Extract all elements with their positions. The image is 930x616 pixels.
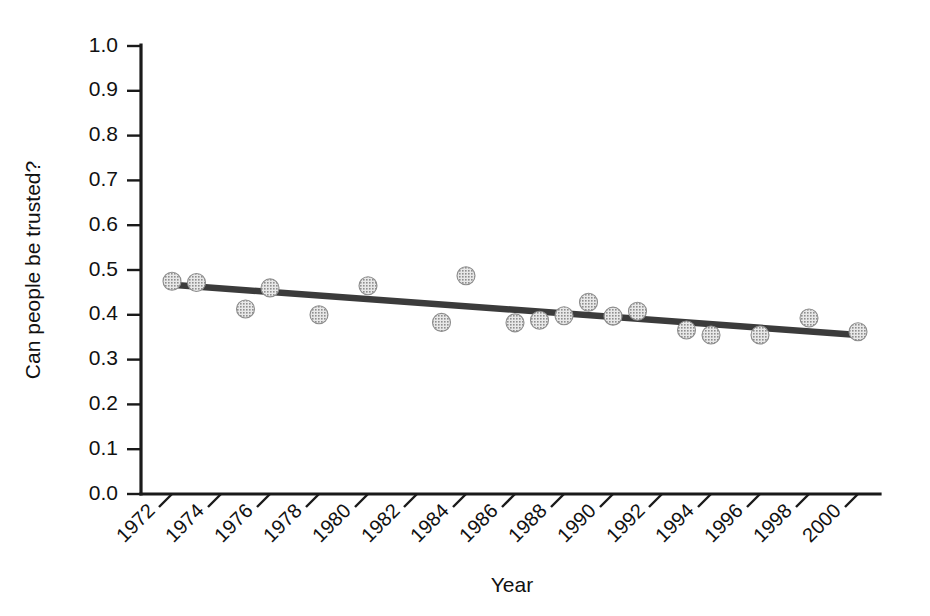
x-tick-label: 1982 (357, 499, 404, 546)
y-tick-label: 0.3 (89, 346, 118, 369)
x-tick-mark (208, 494, 221, 507)
y-tick-label: 1.0 (89, 33, 118, 56)
data-point (261, 279, 279, 297)
x-tick-label: 1978 (259, 499, 306, 546)
x-tick-mark (159, 494, 172, 507)
data-point (751, 326, 769, 344)
data-points-group (163, 267, 867, 344)
data-point (237, 300, 255, 318)
x-tick-mark (404, 494, 417, 507)
x-tick-label: 1990 (553, 499, 600, 546)
y-tick-label: 0.0 (89, 481, 118, 504)
x-tick-label: 1994 (651, 499, 698, 546)
x-tick-label: 1974 (161, 499, 208, 546)
x-tick-label: 1992 (602, 499, 649, 546)
x-tick-mark (845, 494, 858, 507)
x-tick-label: 1972 (112, 499, 159, 546)
data-point (457, 267, 475, 285)
x-tick-mark (796, 494, 809, 507)
y-tick-label: 0.8 (89, 122, 118, 145)
data-point (555, 307, 573, 325)
data-point (506, 314, 524, 332)
x-tick-mark (355, 494, 368, 507)
y-axis-ticks: 0.00.10.20.30.40.50.60.70.80.91.0 (89, 33, 141, 504)
x-tick-label: 1986 (455, 499, 502, 546)
y-tick-label: 0.6 (89, 212, 118, 235)
x-tick-mark (698, 494, 711, 507)
y-tick-label: 0.7 (89, 167, 118, 190)
data-point (310, 306, 328, 324)
x-tick-label: 1984 (406, 499, 453, 546)
scatter-plot-svg: 0.00.10.20.30.40.50.60.70.80.91.0 197219… (0, 0, 930, 616)
data-point (188, 274, 206, 292)
x-tick-label: 1998 (749, 499, 796, 546)
x-tick-mark (306, 494, 319, 507)
y-tick-label: 0.4 (89, 301, 119, 324)
data-point (433, 313, 451, 331)
x-tick-label: 1996 (700, 499, 747, 546)
x-tick-label: 2000 (798, 499, 845, 546)
x-tick-label: 1980 (308, 499, 355, 546)
data-point (163, 272, 181, 290)
data-point (359, 277, 377, 295)
data-point (629, 302, 647, 320)
y-tick-label: 0.2 (89, 391, 118, 414)
x-axis-ticks: 1972197419761978198019821984198619881990… (112, 494, 858, 546)
y-tick-label: 0.5 (89, 257, 118, 280)
x-tick-mark (502, 494, 515, 507)
y-axis-label: Can people be trusted? (21, 161, 44, 379)
data-point (678, 321, 696, 339)
data-point (849, 323, 867, 341)
data-point (800, 309, 818, 327)
x-axis-label: Year (491, 573, 533, 596)
x-tick-mark (649, 494, 662, 507)
data-point (580, 293, 598, 311)
x-tick-mark (747, 494, 760, 507)
y-tick-label: 0.9 (89, 77, 118, 100)
data-point (604, 307, 622, 325)
chart-figure: 0.00.10.20.30.40.50.60.70.80.91.0 197219… (0, 0, 930, 616)
x-tick-label: 1988 (504, 499, 551, 546)
data-point (531, 311, 549, 329)
x-tick-mark (257, 494, 270, 507)
data-point (702, 326, 720, 344)
x-tick-label: 1976 (210, 499, 257, 546)
x-tick-mark (551, 494, 564, 507)
x-tick-mark (453, 494, 466, 507)
x-tick-mark (600, 494, 613, 507)
y-tick-label: 0.1 (89, 436, 118, 459)
